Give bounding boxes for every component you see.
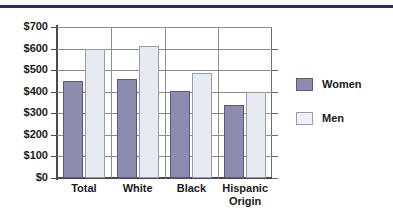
x-axis-tick-label-line: Total — [57, 182, 111, 195]
x-axis-tick-label-line: Origin — [218, 195, 272, 208]
plot-area — [57, 27, 272, 178]
bar-black-women — [170, 91, 190, 178]
x-axis-tick-label: Total — [57, 182, 111, 195]
y-axis-tick-mark-left — [51, 92, 57, 93]
bar-total-men — [85, 49, 105, 178]
category-divider — [111, 27, 112, 178]
y-axis-tick-mark-left — [51, 156, 57, 157]
y-axis-tick-label: $100 — [4, 150, 48, 161]
y-axis-tick-mark-left — [51, 135, 57, 136]
bar-total-women — [63, 81, 83, 178]
y-axis-tick-mark-left — [51, 113, 57, 114]
legend-item-men[interactable]: Men — [296, 110, 362, 126]
x-axis-tick-label: Black — [165, 182, 219, 195]
category-divider — [218, 27, 219, 178]
y-axis-tick-label: $400 — [4, 86, 48, 97]
legend-swatch-men — [296, 112, 313, 125]
y-axis-tick-mark-left — [51, 178, 57, 179]
x-axis-tick-label-line: White — [111, 182, 165, 195]
chart-legend: WomenMen — [296, 76, 362, 144]
y-axis-tick-mark-right — [272, 70, 278, 71]
y-axis-tick-label: $0 — [4, 172, 48, 183]
x-axis-tick-label: HispanicOrigin — [218, 182, 272, 207]
legend-label-men: Men — [322, 112, 344, 124]
y-axis-tick-mark-left — [51, 49, 57, 50]
y-axis-tick-label: $600 — [4, 43, 48, 54]
y-axis-tick-mark-right — [272, 113, 278, 114]
chart-figure: $0$100$200$300$400$500$600$700 TotalWhit… — [0, 0, 393, 220]
y-axis-tick-label: $200 — [4, 129, 48, 140]
bar-white-men — [139, 46, 159, 178]
legend-swatch-women — [296, 78, 313, 91]
y-axis-tick-mark-right — [272, 92, 278, 93]
y-axis-tick-label: $500 — [4, 64, 48, 75]
x-axis-tick-label-line: Hispanic — [218, 182, 272, 195]
x-axis-tick-label-line: Black — [165, 182, 219, 195]
y-axis-tick-label: $700 — [4, 21, 48, 32]
legend-item-women[interactable]: Women — [296, 76, 362, 92]
bar-white-women — [117, 79, 137, 178]
y-axis-tick-mark-right — [272, 135, 278, 136]
top-rule-divider — [0, 5, 393, 8]
y-axis-tick-mark-right — [272, 49, 278, 50]
category-divider — [165, 27, 166, 178]
x-axis-tick-label: White — [111, 182, 165, 195]
y-axis-tick-mark-left — [51, 70, 57, 71]
y-axis-tick-mark-left — [51, 27, 57, 28]
y-axis-tick-mark-right — [272, 178, 278, 179]
bar-black-men — [192, 73, 212, 178]
y-axis-tick-mark-right — [272, 156, 278, 157]
y-axis-tick-label: $300 — [4, 107, 48, 118]
bar-hispanic-origin-women — [224, 105, 244, 178]
legend-label-women: Women — [322, 78, 362, 90]
bar-hispanic-origin-men — [246, 92, 266, 178]
